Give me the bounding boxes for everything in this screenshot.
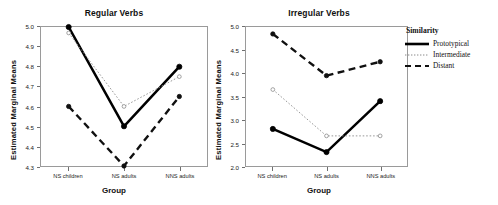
y-tick-label: 5.0: [217, 23, 239, 30]
x-tick-mark: [381, 167, 382, 171]
panel-irregular-verbs: Irregular Verbs Estimated Marginal Means…: [205, 0, 433, 205]
x-tick-mark: [327, 167, 328, 171]
legend-item-dashed: Distant: [404, 60, 498, 71]
legend-label: Distant: [433, 61, 454, 70]
legend-line-swatch-dotted: [404, 50, 430, 60]
y-tick-label: 2.0: [217, 164, 239, 171]
legend-item-dotted: Intermediate: [404, 49, 498, 60]
plot-area-regular: [40, 26, 208, 167]
x-tick-mark: [68, 167, 69, 171]
data-point: [66, 104, 70, 108]
x-tick-label: NS children: [257, 173, 286, 179]
legend-label: Intermediate: [433, 50, 470, 59]
data-point: [271, 32, 275, 36]
data-point: [121, 124, 126, 129]
chart-title-irregular: Irregular Verbs: [205, 8, 433, 18]
data-point: [177, 64, 182, 69]
legend-item-solid: Prototypical: [404, 38, 498, 49]
series-line-solid: [69, 27, 180, 126]
x-axis-label-regular: Group: [0, 186, 228, 195]
legend-line-swatch-solid: [404, 39, 430, 49]
data-point: [122, 164, 126, 168]
plot-lines-regular: [41, 27, 207, 166]
x-tick-label: NS adults: [112, 173, 137, 179]
y-tick-label: 3.0: [217, 117, 239, 124]
series-line-dashed: [273, 34, 380, 76]
series-line-dotted: [69, 33, 180, 106]
y-tick-label: 2.5: [217, 140, 239, 147]
plot-lines-irregular: [246, 27, 407, 166]
data-point: [177, 94, 181, 98]
y-tick-label: 3.5: [217, 93, 239, 100]
legend-line-swatch-dashed: [404, 61, 430, 71]
data-point: [324, 150, 329, 155]
figure-root: Regular Verbs Estimated Marginal Means 4…: [0, 0, 498, 205]
data-point: [67, 31, 71, 35]
data-point: [378, 99, 383, 104]
y-tick-label: 4.5: [12, 123, 34, 130]
x-tick-mark: [272, 167, 273, 171]
data-point: [177, 75, 181, 79]
series-line-dotted: [273, 90, 380, 136]
y-tick-label: 4.6: [12, 103, 34, 110]
y-tick-mark: [37, 167, 40, 168]
legend: Similarity PrototypicalIntermediateDista…: [404, 26, 498, 71]
x-tick-mark: [180, 167, 181, 171]
x-tick-label: NS children: [53, 173, 82, 179]
x-tick-label: NNS adults: [166, 173, 195, 179]
x-tick-label: NNS adults: [366, 173, 395, 179]
data-point: [324, 73, 328, 77]
y-tick-label: 5.0: [12, 23, 34, 30]
data-point: [270, 126, 275, 131]
series-line-solid: [273, 101, 380, 152]
y-tick-label: 4.0: [217, 70, 239, 77]
data-point: [122, 105, 126, 109]
y-tick-label: 4.5: [217, 46, 239, 53]
y-tick-label: 4.7: [12, 83, 34, 90]
y-tick-mark: [242, 167, 245, 168]
plot-area-irregular: [245, 26, 408, 167]
data-point: [271, 88, 275, 92]
panel-regular-verbs: Regular Verbs Estimated Marginal Means 4…: [0, 0, 228, 205]
data-point: [66, 24, 71, 29]
data-point: [378, 134, 382, 138]
y-tick-label: 4.4: [12, 143, 34, 150]
data-point: [325, 134, 329, 138]
chart-title-regular: Regular Verbs: [0, 8, 228, 18]
y-tick-label: 4.3: [12, 164, 34, 171]
data-point: [378, 60, 382, 64]
y-tick-label: 4.9: [12, 43, 34, 50]
legend-entries: PrototypicalIntermediateDistant: [404, 38, 498, 71]
x-axis-label-irregular: Group: [205, 186, 433, 195]
legend-label: Prototypical: [433, 39, 469, 48]
legend-title: Similarity: [406, 26, 498, 35]
x-tick-label: NS adults: [314, 173, 339, 179]
y-tick-label: 4.8: [12, 63, 34, 70]
